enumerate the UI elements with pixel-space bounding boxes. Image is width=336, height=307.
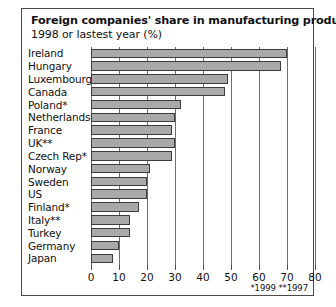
category-label: Germany	[28, 240, 78, 252]
chart-title: Foreign companies' share in manufacturin…	[31, 14, 309, 27]
category-label: Japan	[28, 252, 60, 264]
table-row	[91, 85, 315, 98]
bar	[91, 74, 228, 84]
table-row	[91, 73, 315, 86]
category-label: Canada	[28, 86, 70, 98]
axis-tick	[259, 265, 260, 270]
bar	[91, 151, 172, 161]
axis-tick	[315, 265, 316, 270]
footnote: *1999 **1997	[250, 283, 308, 293]
axis-tick-label: 30	[168, 271, 181, 283]
gridline	[315, 47, 316, 265]
bar	[91, 177, 147, 187]
table-row	[91, 252, 315, 265]
category-label-row: UK**	[28, 137, 91, 150]
category-label: Norway	[28, 163, 70, 175]
category-label: US	[28, 188, 45, 200]
chart-card: Foreign companies' share in manufacturin…	[21, 8, 314, 296]
category-label-row: Japan	[28, 252, 91, 265]
axis-tick	[231, 265, 232, 270]
category-label: Finland*	[28, 201, 73, 213]
axis-tick-label: 70	[280, 271, 293, 283]
table-row	[91, 150, 315, 163]
category-label: Poland*	[28, 99, 70, 111]
category-label-row: Finland*	[28, 201, 91, 214]
axis-tick-label: 0	[88, 271, 95, 283]
bar	[91, 125, 172, 135]
table-row	[91, 98, 315, 111]
category-label: France	[28, 124, 65, 136]
axis-tick	[91, 265, 92, 270]
category-label: Czech Rep*	[28, 150, 90, 162]
bar	[91, 241, 119, 251]
table-row	[91, 201, 315, 214]
category-label-row: Czech Rep*	[28, 150, 91, 163]
axis-tick	[175, 265, 176, 270]
axis-tick	[203, 265, 204, 270]
axis-tick-label: 10	[112, 271, 125, 283]
category-label-row: Canada	[28, 85, 91, 98]
bar	[91, 228, 130, 238]
category-label: UK**	[28, 137, 55, 149]
table-row	[91, 214, 315, 227]
title-block: Foreign companies' share in manufacturin…	[31, 14, 309, 41]
bar	[91, 215, 130, 225]
category-label-row: US	[28, 188, 91, 201]
category-label: Italy**	[28, 214, 63, 226]
table-row	[91, 124, 315, 137]
category-label-row: France	[28, 124, 91, 137]
bar	[91, 138, 175, 148]
bars-container	[91, 47, 315, 265]
axis-tick	[119, 265, 120, 270]
chart-subtitle: 1998 or lastest year (%)	[31, 28, 309, 41]
category-label: Turkey	[28, 227, 64, 239]
axis-tick-label: 20	[140, 271, 153, 283]
axis-tick-label: 60	[252, 271, 265, 283]
x-axis: 01020304050607080	[91, 265, 315, 285]
table-row	[91, 60, 315, 73]
bar	[91, 100, 181, 110]
table-row	[91, 175, 315, 188]
bar	[91, 49, 287, 59]
table-row	[91, 162, 315, 175]
table-row	[91, 137, 315, 150]
axis-tick-label: 50	[224, 271, 237, 283]
plot-area: IrelandHungaryLuxembourgCanadaPoland*Net…	[22, 47, 313, 265]
bar	[91, 164, 150, 174]
bar	[91, 254, 113, 264]
category-label: Sweden	[28, 176, 72, 188]
category-label: Netherlands	[28, 111, 93, 123]
axis-tick	[287, 265, 288, 270]
bar	[91, 202, 139, 212]
bar	[91, 87, 225, 97]
category-label-row: Italy**	[28, 214, 91, 227]
category-label: Luxembourg	[28, 73, 95, 85]
category-label-row: Sweden	[28, 175, 91, 188]
category-label-row: Norway	[28, 162, 91, 175]
table-row	[91, 239, 315, 252]
axis-tick	[147, 265, 148, 270]
table-row	[91, 226, 315, 239]
table-row	[91, 111, 315, 124]
category-label-row: Germany	[28, 239, 91, 252]
bar	[91, 113, 175, 123]
category-label-row: Hungary	[28, 60, 91, 73]
category-label-row: Ireland	[28, 47, 91, 60]
axis-tick-label: 80	[308, 271, 321, 283]
category-labels: IrelandHungaryLuxembourgCanadaPoland*Net…	[28, 47, 91, 265]
axis-tick-label: 40	[196, 271, 209, 283]
table-row	[91, 188, 315, 201]
category-label: Hungary	[28, 60, 75, 72]
category-label-row: Netherlands	[28, 111, 91, 124]
category-label-row: Luxembourg	[28, 73, 91, 86]
category-label-row: Turkey	[28, 226, 91, 239]
bar	[91, 189, 147, 199]
bar	[91, 61, 281, 71]
table-row	[91, 47, 315, 60]
category-label-row: Poland*	[28, 98, 91, 111]
category-label: Ireland	[28, 47, 66, 59]
